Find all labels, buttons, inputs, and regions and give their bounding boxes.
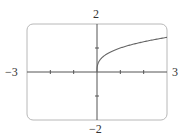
x-max-label: 3: [172, 66, 178, 78]
function-curve: [97, 37, 167, 72]
x-min-label: −3: [5, 66, 18, 78]
y-max-label: 2: [93, 8, 99, 20]
y-min-label: −2: [89, 123, 102, 135]
